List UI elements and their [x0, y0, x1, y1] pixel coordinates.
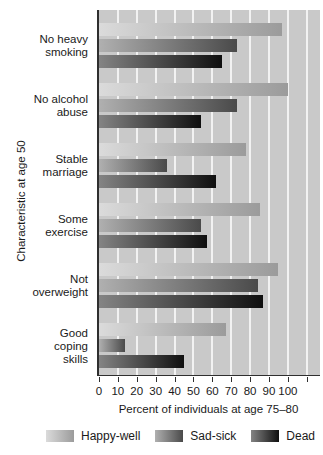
- bar-group: [99, 83, 320, 131]
- category-labels: No heavysmokingNo alcoholabuseStablemarr…: [0, 10, 92, 376]
- bar-sad-sick: [99, 99, 237, 112]
- x-tick-label: 90: [263, 385, 276, 397]
- x-tick-label: 10: [111, 385, 124, 397]
- axis-tick: [212, 377, 213, 382]
- bar-sad-sick: [99, 339, 125, 352]
- bar-dead: [99, 55, 222, 68]
- category-label: No alcoholabuse: [0, 93, 88, 119]
- axis-tick: [193, 377, 194, 382]
- axis-tick: [250, 377, 251, 382]
- bar-happy-well: [99, 263, 278, 276]
- legend-item-dead: Dead: [251, 429, 315, 443]
- axis-tick: [175, 377, 176, 382]
- bar-sad-sick: [99, 279, 258, 292]
- x-axis-title: Percent of individuals at age 75–80: [97, 403, 320, 415]
- x-tick-label: 40: [168, 385, 181, 397]
- legend-item-happy-well: Happy-well: [46, 429, 140, 443]
- category-label: No heavysmoking: [0, 33, 88, 59]
- bar-happy-well: [99, 143, 246, 156]
- legend-swatch-icon: [251, 430, 279, 442]
- category-label: Someexercise: [0, 213, 88, 239]
- bar-dead: [99, 295, 263, 308]
- bar-sad-sick: [99, 159, 167, 172]
- plot-area: [97, 10, 320, 376]
- axis-tick: [288, 377, 289, 382]
- x-tick-label: 70: [225, 385, 238, 397]
- bar-dead: [99, 235, 207, 248]
- bar-group: [99, 143, 320, 191]
- bar-dead: [99, 115, 201, 128]
- bar-group: [99, 23, 320, 71]
- category-label: Stablemarriage: [0, 153, 88, 179]
- axis-tick: [137, 377, 138, 382]
- x-tick-label: 0: [96, 385, 102, 397]
- x-tick-label: 80: [244, 385, 257, 397]
- axis-tick: [118, 377, 119, 382]
- x-tick-labels: 0102030405060708090100: [99, 385, 320, 398]
- legend: Happy-wellSad-sickDead: [38, 429, 323, 443]
- axis-tick: [231, 377, 232, 382]
- bar-happy-well: [99, 23, 282, 36]
- legend-swatch-icon: [155, 430, 183, 442]
- bar-dead: [99, 175, 216, 188]
- bar-happy-well: [99, 323, 226, 336]
- axis-ticks: [99, 377, 320, 382]
- bar-happy-well: [99, 83, 288, 96]
- x-tick-label: 30: [149, 385, 162, 397]
- x-tick-label: 20: [130, 385, 143, 397]
- x-tick-label: 100: [278, 385, 297, 397]
- legend-label: Happy-well: [81, 429, 140, 443]
- axis-tick: [156, 377, 157, 382]
- x-tick-label: 60: [206, 385, 219, 397]
- axis-tick: [99, 377, 100, 382]
- x-tick-label: 50: [187, 385, 200, 397]
- category-label: Notoverweight: [0, 273, 88, 299]
- bar-group: [99, 263, 320, 311]
- legend-label: Dead: [286, 429, 315, 443]
- bar-happy-well: [99, 203, 260, 216]
- legend-item-sad-sick: Sad-sick: [155, 429, 236, 443]
- bar-group: [99, 323, 320, 371]
- bar-sad-sick: [99, 219, 201, 232]
- legend-label: Sad-sick: [190, 429, 236, 443]
- bar-dead: [99, 355, 184, 368]
- legend-swatch-icon: [46, 430, 74, 442]
- bar-group: [99, 203, 320, 251]
- category-label: Goodcopingskills: [0, 326, 88, 365]
- chart-figure: Characteristic at age 50 No heavysmoking…: [0, 0, 323, 455]
- bar-sad-sick: [99, 39, 237, 52]
- axis-tick: [307, 377, 308, 382]
- axis-tick: [269, 377, 270, 382]
